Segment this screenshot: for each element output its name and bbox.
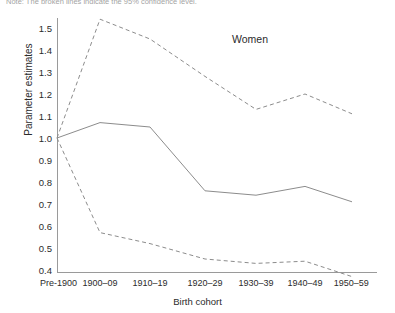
y-axis-tick-label: 0.6 xyxy=(12,221,52,232)
x-axis-title: Birth cohort xyxy=(0,296,395,307)
x-axis-tick-label: Pre-1900 xyxy=(40,278,77,288)
figure-panel: Note: The broken lines indicate the 95% … xyxy=(0,0,395,313)
x-axis-tick-labels: Pre-19001900–091910–191920–291930–391940… xyxy=(0,278,395,294)
x-axis-tick-label: 1950–59 xyxy=(334,278,369,288)
y-axis-title: Parameter estimates xyxy=(23,10,34,170)
data-lines xyxy=(57,18,377,272)
y-axis-tick-label: 0.5 xyxy=(12,243,52,254)
x-axis-line xyxy=(57,272,377,273)
x-axis-tick-label: 1900–09 xyxy=(82,278,117,288)
figure-caption-text: Note: The broken lines indicate the 95% … xyxy=(6,0,326,6)
series-lower-confidence-line xyxy=(57,138,352,277)
series-upper-confidence-line xyxy=(57,19,352,138)
y-axis-tick-label: 0.7 xyxy=(12,199,52,210)
figure-caption: Note: The broken lines indicate the 95% … xyxy=(6,0,326,7)
plot-area xyxy=(57,18,377,272)
y-axis-tick-label: 0.8 xyxy=(12,177,52,188)
y-axis-tick-label: 0.4 xyxy=(12,265,52,276)
series-annotation-women: Women xyxy=(232,33,268,45)
x-axis-tick-label: 1930–39 xyxy=(238,278,273,288)
series-parameter-estimate-line xyxy=(57,123,352,202)
x-axis-tick-label: 1920–29 xyxy=(187,278,222,288)
x-axis-tick-label: 1940–49 xyxy=(287,278,322,288)
x-axis-tick-label: 1910–19 xyxy=(132,278,167,288)
